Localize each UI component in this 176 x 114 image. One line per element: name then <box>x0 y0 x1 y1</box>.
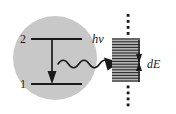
level-spacing-label: dE <box>147 57 161 71</box>
diagram-svg: 2 1 hν <box>0 0 176 114</box>
energy-level-1-label: 1 <box>20 77 26 91</box>
energy-level-2-label: 2 <box>20 32 26 46</box>
photon-energy-label: hν <box>92 32 104 46</box>
figure-canvas: 2 1 hν <box>0 0 176 114</box>
